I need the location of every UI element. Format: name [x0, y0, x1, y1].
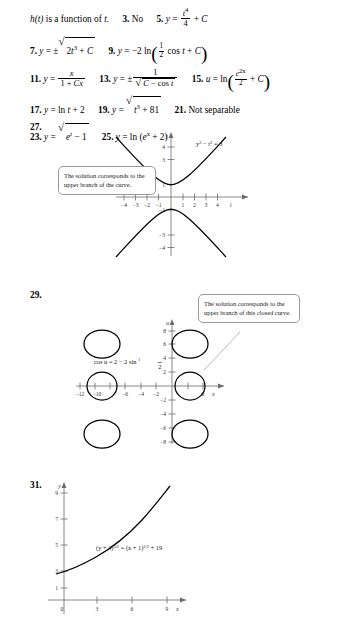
svg-text:−4: −4 [121, 202, 127, 208]
fraction-e2x-2: e2x2 [235, 68, 247, 88]
svg-text:y2 − t2 = 3: y2 − t2 = 3 [196, 140, 222, 147]
answer-number-15: 15. [192, 74, 204, 84]
fraction-1-radCcost: 1√C − cos t [133, 68, 177, 88]
svg-text:cos u = 2 − 2 sin 1: cos u = 2 − 2 sin 1 [94, 357, 140, 365]
svg-text:3: 3 [96, 606, 99, 612]
svg-text:6: 6 [131, 606, 134, 612]
svg-text:−2: −2 [144, 202, 150, 208]
svg-text:x: x [175, 606, 179, 612]
callout-27: The solution corresponds to the upper br… [58, 166, 156, 195]
figure-31: 9 7 5 3 1 0 3 6 9 y x (y + 4)3/2 = (x + … [44, 478, 204, 618]
svg-text:−6: −6 [122, 391, 128, 397]
svg-text:5: 5 [55, 542, 58, 548]
answer-number-21: 21. [174, 105, 186, 115]
svg-text:u: u [166, 320, 169, 326]
svg-text:−6: −6 [160, 425, 166, 431]
radical-2t3C: √2t3 + C [58, 37, 95, 61]
figure-number-27: 27. [30, 122, 42, 132]
svg-text:3: 3 [162, 157, 165, 163]
svg-text:−2: −2 [153, 391, 159, 397]
svg-text:4: 4 [216, 202, 219, 208]
answer-number-3: 3. [122, 14, 129, 24]
svg-text:4: 4 [162, 144, 165, 150]
radical-et-1: √et − 1 [58, 123, 89, 147]
figure-number-31: 31. [30, 480, 42, 490]
svg-text:1: 1 [55, 585, 58, 591]
radical-t3-81: √t3 + 81 [126, 96, 161, 120]
answer-number-9: 9. [108, 46, 115, 56]
fraction-x-1Cx: x1 + Cx [58, 69, 84, 88]
svg-text:−12: −12 [76, 391, 85, 397]
svg-text:3: 3 [205, 202, 208, 208]
svg-text:t: t [230, 202, 232, 208]
figure-number-29: 29. [30, 290, 42, 300]
answer-number-11: 11. [30, 74, 41, 84]
svg-text:−3: −3 [133, 202, 139, 208]
svg-text:−10: −10 [93, 391, 102, 397]
callout-29-leader [198, 330, 258, 372]
answer-line-2: 7. y = ±√2t3 + C 9. y = −2 ln(12 cos t +… [30, 37, 340, 63]
svg-text:9: 9 [166, 606, 169, 612]
svg-text:−4: −4 [138, 391, 144, 397]
svg-text:8: 8 [163, 328, 166, 334]
svg-text:9: 9 [55, 490, 58, 496]
svg-text:y: y [164, 133, 168, 139]
svg-text:7: 7 [55, 516, 58, 522]
answer-number-5: 5. [156, 14, 163, 24]
answer-key-page: h(t) is a function of t. 3. No 5. y = t4… [0, 0, 358, 620]
callout-29: The solution corresponds to the upper br… [198, 294, 300, 323]
answer-line-1: h(t) is a function of t. 3. No 5. y = t4… [30, 6, 340, 29]
answer-number-23: 23. [30, 132, 42, 142]
fraction-t4-4: t44 [181, 6, 191, 28]
svg-text:−8: −8 [160, 439, 166, 445]
answers-block: h(t) is a function of t. 3. No 5. y = t4… [30, 6, 340, 147]
svg-text:y: y [57, 483, 61, 489]
svg-text:2: 2 [193, 202, 196, 208]
svg-text:6: 6 [163, 341, 166, 347]
answer-line-4: 17. y = ln t + 2 19. y = √t3 + 81 21. No… [30, 96, 340, 120]
svg-text:2: 2 [163, 369, 166, 375]
svg-text:−2: −2 [160, 397, 166, 403]
svg-text:−3: −3 [159, 232, 165, 238]
svg-text:−4: −4 [159, 245, 165, 251]
answer-number-13: 13. [99, 74, 111, 84]
answer-line-3: 11. y = x1 + Cx 13. y = ±1√C − cos t 15.… [30, 68, 340, 91]
svg-text:4: 4 [163, 355, 166, 361]
answer-number-19: 19. [98, 105, 110, 115]
svg-text:−4: −4 [160, 411, 166, 417]
answer-number-17: 17. [30, 105, 42, 115]
answer-number-7: 7. [30, 46, 37, 56]
svg-text:0: 0 [61, 606, 64, 612]
svg-text:2: 2 [158, 363, 161, 370]
fraction-1-2: 12 [159, 43, 165, 59]
svg-text:(y + 4)3/2 = (x + 1)3/2 + 19: (y + 4)3/2 = (x + 1)3/2 + 19 [96, 544, 162, 552]
svg-text:1: 1 [182, 202, 185, 208]
svg-text:x: x [211, 391, 215, 397]
